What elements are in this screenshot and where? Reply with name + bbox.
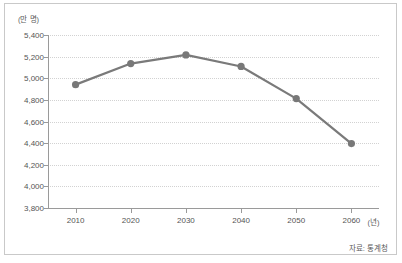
x-axis-tick-mark xyxy=(296,208,297,213)
x-axis-tick-label: 2030 xyxy=(177,216,195,225)
x-axis-unit-label: (년) xyxy=(367,216,379,227)
data-point-2050 xyxy=(293,95,300,102)
source-note: 자료: 통계청 xyxy=(349,242,388,253)
x-axis-tick-mark xyxy=(131,208,132,213)
y-axis-tick-label: 4,200 xyxy=(24,160,44,169)
x-axis-tick-label: 2060 xyxy=(343,216,361,225)
x-axis-line xyxy=(48,208,379,209)
x-axis-tick-mark xyxy=(186,208,187,213)
data-point-2010 xyxy=(72,81,79,88)
x-axis-tick-mark xyxy=(351,208,352,213)
x-axis-tick-label: 2040 xyxy=(232,216,250,225)
x-axis-tick-label: 2020 xyxy=(122,216,140,225)
y-axis-tick-labels: 5,4005,2005,0004,8004,6004,4004,2004,000… xyxy=(0,35,44,208)
data-point-2030 xyxy=(182,51,189,58)
series-markers xyxy=(72,51,355,147)
data-point-2020 xyxy=(127,60,134,67)
y-axis-tick-label: 4,600 xyxy=(24,117,44,126)
x-axis-tick-label: 2050 xyxy=(287,216,305,225)
population-projection-chart: (만 명) 5,4005,2005,0004,8004,6004,4004,20… xyxy=(0,0,402,263)
y-axis-tick-label: 4,800 xyxy=(24,95,44,104)
data-point-2040 xyxy=(237,63,244,70)
y-axis-tick-label: 3,800 xyxy=(24,204,44,213)
y-axis-tick-label: 5,200 xyxy=(24,52,44,61)
y-axis-tick-label: 4,400 xyxy=(24,139,44,148)
y-axis-tick-label: 5,000 xyxy=(24,74,44,83)
x-axis-tick-mark xyxy=(241,208,242,213)
x-axis-tick-label: 2010 xyxy=(67,216,85,225)
y-axis-tick-label: 4,000 xyxy=(24,182,44,191)
line-series xyxy=(48,35,379,208)
data-point-2060 xyxy=(348,140,355,147)
y-axis-tick-label: 5,400 xyxy=(24,31,44,40)
y-axis-tick-mark xyxy=(44,208,48,209)
series-line xyxy=(76,55,352,144)
y-axis-unit-label: (만 명) xyxy=(18,13,39,24)
x-axis-tick-mark xyxy=(76,208,77,213)
